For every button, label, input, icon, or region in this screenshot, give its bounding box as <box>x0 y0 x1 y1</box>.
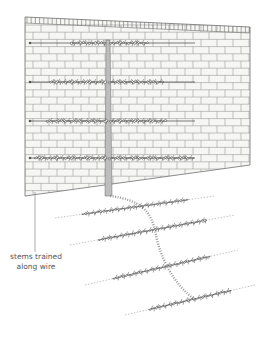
ground-plan-stems <box>55 196 255 315</box>
label-line-1: stems trained <box>10 252 62 262</box>
label-stems-trained: stems trained along wire <box>10 252 62 272</box>
brick-wall <box>20 17 255 205</box>
label-line-2: along wire <box>10 262 62 272</box>
espalier-illustration <box>0 0 268 340</box>
